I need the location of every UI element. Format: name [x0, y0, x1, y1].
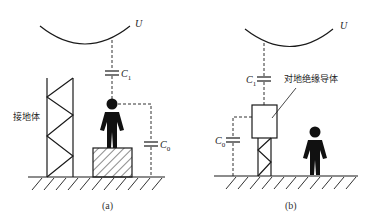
c1-label-b: C1 — [246, 75, 256, 88]
voltage-label-a: U — [135, 19, 142, 29]
voltage-label-a-text: U — [135, 18, 142, 29]
c0-label-b: C0 — [215, 136, 225, 149]
c1-label-b-main: C — [246, 74, 253, 85]
dashed-lead-a-c0 — [118, 104, 151, 140]
grounding-tower-a — [47, 78, 73, 177]
overhead-line-arc-a — [40, 26, 130, 44]
diagram-canvas — [0, 0, 368, 216]
c0-label-b-sub: 0 — [222, 141, 226, 149]
c1-label-a-main: C — [121, 68, 128, 79]
person-figure-a — [100, 99, 124, 149]
panel-b — [214, 29, 358, 189]
insulated-conductor-box — [252, 105, 277, 138]
capacitor-c0-b — [226, 138, 240, 142]
c1-label-b-sub: 1 — [253, 80, 257, 88]
label-leader-line — [272, 88, 296, 118]
capacitor-c1-b — [257, 77, 271, 81]
panel-a — [28, 26, 165, 190]
capacitor-c0-a — [144, 142, 158, 146]
support-tower-b — [258, 138, 271, 176]
voltage-label-b-text: U — [340, 20, 347, 31]
ground-hatch-b — [226, 177, 356, 189]
ground-hatch-a — [32, 178, 162, 190]
c0-label-a-sub: 0 — [167, 145, 171, 153]
insulating-platform — [93, 148, 132, 177]
c0-label-a-main: C — [160, 139, 167, 150]
dashed-lead-b-c0 — [233, 117, 252, 136]
caption-a: (a) — [102, 201, 113, 211]
ground-body-label: 接地体 — [13, 113, 40, 122]
overhead-line-arc-b — [245, 29, 333, 47]
c0-label-b-main: C — [215, 135, 222, 146]
voltage-label-b: U — [340, 21, 347, 31]
capacitor-c1-a — [105, 71, 119, 75]
c1-label-a-sub: 1 — [128, 74, 132, 82]
c0-label-a: C0 — [160, 140, 170, 153]
c1-label-a: C1 — [121, 69, 131, 82]
insulated-conductor-label: 对地绝缘导体 — [284, 75, 338, 84]
person-figure-b — [303, 127, 327, 176]
caption-b: (b) — [285, 201, 297, 211]
